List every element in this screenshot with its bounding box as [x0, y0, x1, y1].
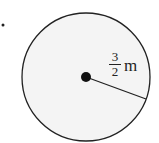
radius-unit: m — [124, 57, 137, 74]
center-point — [81, 72, 91, 82]
radius-fraction: 3 2 — [108, 51, 122, 78]
fraction-denominator: 2 — [108, 66, 122, 78]
bullet-dot — [2, 24, 5, 27]
fraction-numerator: 3 — [108, 51, 122, 63]
